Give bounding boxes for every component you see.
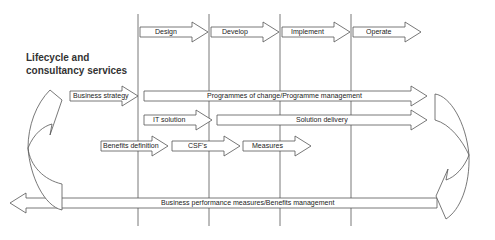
solution-delivery-label: Solution delivery bbox=[296, 115, 348, 125]
measures-label: Measures bbox=[252, 141, 283, 151]
phase-label-design: Design bbox=[155, 27, 177, 37]
business-strategy-label: Business strategy bbox=[73, 91, 129, 101]
title-line-2: consultancy services bbox=[26, 64, 127, 77]
benefits-definition-label: Benefits definition bbox=[103, 141, 159, 151]
programmes-label: Programmes of change/Programme managemen… bbox=[207, 91, 362, 101]
csfs-label: CSF's bbox=[188, 141, 207, 151]
phase-label-implement: Implement bbox=[291, 27, 324, 37]
left-cycle-arrow bbox=[28, 90, 62, 210]
phase-label-operate: Operate bbox=[366, 27, 391, 37]
diagram-title: Lifecycle and consultancy services bbox=[26, 51, 127, 77]
business-performance-label: Business performance measures/Benefits m… bbox=[161, 198, 334, 208]
phase-label-develop: Develop bbox=[222, 27, 248, 37]
right-cycle-arrow bbox=[435, 94, 469, 219]
title-line-1: Lifecycle and bbox=[26, 51, 127, 64]
it-solution-label: IT solution bbox=[153, 115, 185, 125]
